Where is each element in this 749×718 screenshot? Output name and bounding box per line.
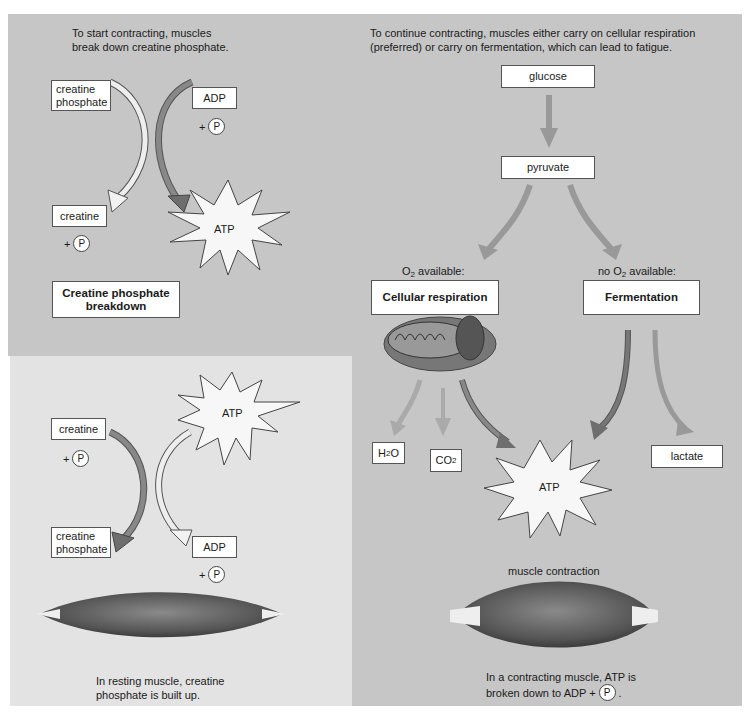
contracting-caption-line1: In a contracting muscle, ATP is bbox=[486, 670, 636, 684]
adp-box: ADP bbox=[192, 536, 237, 558]
creatine-breakdown-intro: To start contracting, muscles break down… bbox=[72, 26, 232, 54]
phosphate-group: +P bbox=[64, 235, 90, 252]
arrow-to-co2 bbox=[435, 388, 451, 436]
phosphate-group: +P bbox=[63, 450, 89, 467]
phosphate-circle: P bbox=[73, 235, 90, 252]
arrow-respiration-to-atp bbox=[462, 380, 516, 448]
cellular-respiration-box: Cellular respiration bbox=[371, 280, 499, 315]
muscle-contraction-label: muscle contraction bbox=[508, 564, 600, 578]
phosphate-circle: P bbox=[72, 450, 89, 467]
glucose-box: glucose bbox=[501, 65, 595, 88]
phosphate-circle: P bbox=[208, 118, 225, 135]
fermentation-box: Fermentation bbox=[583, 280, 700, 315]
arrow-creatine-phosphate-to-creatine bbox=[108, 82, 145, 212]
resting-muscle-image bbox=[36, 592, 286, 637]
creatine-box: creatine bbox=[51, 418, 106, 440]
atp-label: ATP bbox=[539, 480, 560, 494]
arrow-glucose-to-pyruvate bbox=[540, 95, 558, 148]
creatine-phosphate-breakdown-title: Creatine phosphate breakdown bbox=[52, 281, 180, 318]
arrow-pyruvate-to-fermentation bbox=[570, 185, 622, 260]
h2o-box: H2O bbox=[372, 442, 405, 464]
diagram-graphics bbox=[0, 0, 749, 718]
arrow-fermentation-to-atp bbox=[590, 330, 628, 440]
atp-label: ATP bbox=[214, 222, 235, 236]
arrow-atp-to-adp bbox=[159, 432, 192, 546]
arrow-adp-to-atp bbox=[158, 82, 192, 212]
creatine-phosphate-box: creatine phosphate bbox=[51, 80, 111, 111]
arrow-pyruvate-to-respiration bbox=[478, 185, 530, 260]
arrow-creatine-to-creatine-phosphate bbox=[110, 432, 144, 552]
resting-muscle-caption: In resting muscle, creatine phosphate is… bbox=[96, 674, 226, 702]
arrow-fermentation-to-lactate bbox=[655, 330, 694, 436]
phosphate-group: +P bbox=[199, 118, 225, 135]
arrow-to-h2o bbox=[390, 380, 420, 436]
phosphate-group: +P bbox=[199, 566, 225, 583]
atp-label: ATP bbox=[222, 406, 243, 420]
contracting-muscle-image bbox=[450, 582, 658, 648]
co2-box: CO2 bbox=[430, 449, 462, 472]
lactate-box: lactate bbox=[651, 445, 723, 468]
pyruvate-box: pyruvate bbox=[501, 156, 595, 179]
contracting-caption-line2: broken down to ADP +P. bbox=[486, 684, 622, 701]
contracting-intro: To continue contracting, muscles either … bbox=[370, 26, 730, 54]
creatine-box: creatine bbox=[52, 205, 107, 227]
phosphate-circle: P bbox=[208, 566, 225, 583]
mitochondrion-image bbox=[384, 316, 496, 371]
phosphate-circle: P bbox=[599, 684, 616, 701]
adp-box: ADP bbox=[192, 87, 237, 109]
creatine-phosphate-box: creatine phosphate bbox=[51, 527, 111, 558]
